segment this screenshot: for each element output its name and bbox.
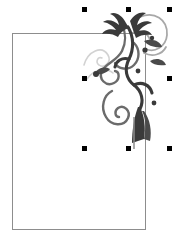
handle-top-right[interactable] xyxy=(167,7,172,12)
page-rectangle[interactable] xyxy=(12,33,146,230)
handle-middle-left[interactable] xyxy=(82,76,87,81)
handle-top-left[interactable] xyxy=(82,7,87,12)
document-canvas[interactable] xyxy=(0,0,182,249)
handle-middle-right[interactable] xyxy=(167,76,172,81)
handle-bottom-right[interactable] xyxy=(167,146,172,151)
handle-bottom-left[interactable] xyxy=(82,146,87,151)
handle-top-center[interactable] xyxy=(126,7,131,12)
handle-bottom-center[interactable] xyxy=(126,146,131,151)
